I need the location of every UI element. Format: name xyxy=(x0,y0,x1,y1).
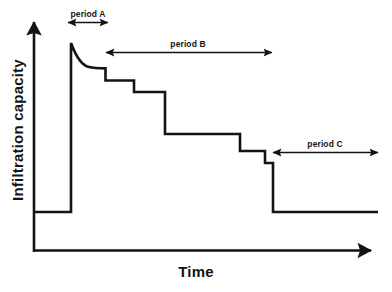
capacity-curve-path xyxy=(34,43,378,212)
axis-group xyxy=(34,22,371,252)
period-a-label: period A xyxy=(62,9,114,19)
infiltration-capacity-curve-group xyxy=(34,43,378,212)
period-b-label: period B xyxy=(140,39,236,49)
x-axis-title: Time xyxy=(0,262,392,282)
y-axis-title: Infiltration capacity xyxy=(8,15,28,245)
period-c-label: period C xyxy=(276,139,374,149)
infiltration-capacity-figure: Infiltration capacity Time period A peri… xyxy=(0,0,392,292)
